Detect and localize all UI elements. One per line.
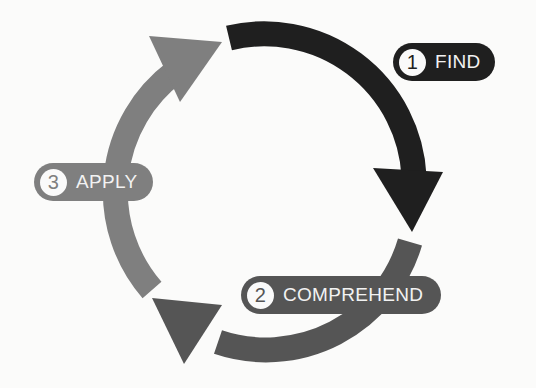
step-label: FIND — [435, 51, 481, 73]
step-label: APPLY — [76, 171, 137, 193]
step-apply-label: 3 APPLY — [34, 163, 153, 201]
step-number-badge: 3 — [40, 169, 67, 196]
step-label: COMPREHEND — [283, 284, 423, 306]
step-find-label: 1 FIND — [393, 43, 495, 81]
step-number-badge: 2 — [247, 282, 274, 309]
step-comprehend-label: 2 COMPREHEND — [241, 276, 441, 314]
step-number-badge: 1 — [399, 49, 426, 76]
